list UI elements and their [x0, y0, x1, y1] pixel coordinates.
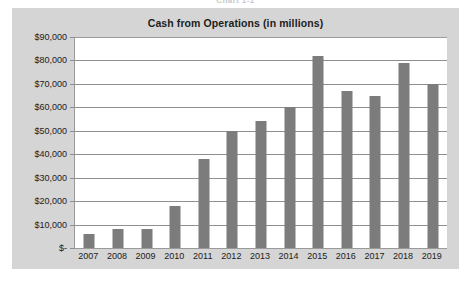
bar-slot [161, 37, 190, 248]
bar [284, 107, 295, 248]
bar [198, 159, 209, 248]
bar [313, 56, 324, 248]
bar-slot [418, 37, 447, 248]
bar [112, 229, 123, 248]
bar [427, 84, 438, 248]
x-axis-label: 2007 [78, 251, 98, 261]
bar-series [75, 37, 447, 248]
bar-slot [304, 37, 333, 248]
x-axis-label: 2010 [164, 251, 184, 261]
bar-slot [75, 37, 104, 248]
x-axis-label: 2013 [250, 251, 270, 261]
y-axis-label: $- [59, 243, 67, 253]
y-axis-tick [70, 248, 75, 249]
y-axis-label: $10,000 [34, 220, 67, 230]
bar-slot [390, 37, 419, 248]
bar-slot [189, 37, 218, 248]
bar [141, 229, 152, 248]
y-axis-label: $80,000 [34, 55, 67, 65]
x-axis-labels: 2007200820092010201120122013201420152016… [74, 251, 446, 265]
y-axis-label: $70,000 [34, 79, 67, 89]
bar [84, 234, 95, 248]
x-axis-label: 2017 [364, 251, 384, 261]
x-axis-label: 2009 [136, 251, 156, 261]
bar-slot [361, 37, 390, 248]
y-axis-label: $60,000 [34, 102, 67, 112]
x-axis-label: 2015 [307, 251, 327, 261]
x-axis-label: 2016 [336, 251, 356, 261]
bar-slot [333, 37, 362, 248]
bar-slot [275, 37, 304, 248]
y-axis-label: $30,000 [34, 173, 67, 183]
bar [170, 206, 181, 248]
x-axis-label: 2011 [193, 251, 212, 261]
bar-slot [218, 37, 247, 248]
bar [370, 96, 381, 248]
bar [341, 91, 352, 248]
bar [399, 63, 410, 248]
bar [227, 131, 238, 248]
bar-slot [247, 37, 276, 248]
y-axis-label: $40,000 [34, 149, 67, 159]
figure-caption [8, 274, 308, 282]
plot-area: $-$10,000$20,000$30,000$40,000$50,000$60… [74, 37, 447, 249]
bar-slot [104, 37, 133, 248]
x-axis-label: 2019 [422, 251, 442, 261]
chart-title: Cash from Operations (in millions) [12, 17, 459, 29]
x-axis-label: 2018 [393, 251, 413, 261]
y-axis-label: $20,000 [34, 196, 67, 206]
x-axis-label: 2012 [221, 251, 241, 261]
x-axis-label: 2014 [279, 251, 299, 261]
bar [255, 121, 266, 248]
x-axis-label: 2008 [107, 251, 127, 261]
y-axis-label: $90,000 [34, 32, 67, 42]
y-axis-label: $50,000 [34, 126, 67, 136]
chart-panel: Cash from Operations (in millions) $-$10… [12, 8, 459, 269]
figure-label: Chart 1-1 [0, 0, 471, 5]
bar-slot [132, 37, 161, 248]
